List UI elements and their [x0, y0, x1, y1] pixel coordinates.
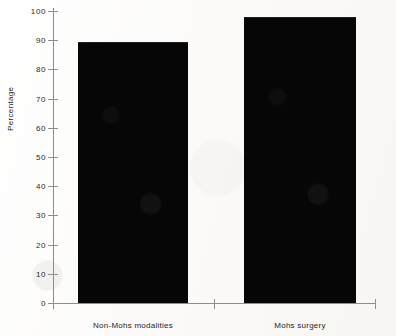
y-axis-line — [53, 8, 54, 303]
y-axis-tick-label: 70 — [36, 94, 46, 103]
y-axis-tick-label: 40 — [36, 182, 46, 191]
y-axis-tick-label: 30 — [36, 211, 46, 220]
y-axis-tick-label: 50 — [36, 153, 46, 162]
y-axis-tick-label: 20 — [36, 240, 46, 249]
x-axis-tick — [53, 299, 54, 309]
y-axis-tick-label: 0 — [41, 299, 46, 308]
y-axis-tick — [48, 99, 58, 100]
bar-chart-figure: Percentage 0102030405060708090100 Non-Mo… — [0, 0, 396, 336]
y-axis-tick-label: 100 — [31, 7, 46, 16]
x-axis-tick — [214, 299, 215, 309]
plot-area: 0102030405060708090100 Non-Mohs modaliti… — [53, 11, 375, 303]
y-axis-tick-label: 90 — [36, 36, 46, 45]
x-axis-tick — [375, 299, 376, 309]
y-axis-tick — [48, 186, 58, 187]
y-axis-tick-label: 10 — [36, 269, 46, 278]
bar — [78, 42, 188, 303]
bar-sheen — [244, 17, 356, 303]
y-axis-tick-label: 60 — [36, 123, 46, 132]
y-axis-tick-label: 80 — [36, 65, 46, 74]
y-axis-tick — [48, 40, 58, 41]
y-axis-tick — [48, 245, 58, 246]
y-axis-tick — [48, 157, 58, 158]
y-axis-tick — [48, 128, 58, 129]
bar — [244, 17, 356, 303]
y-axis-tick — [48, 69, 58, 70]
y-axis-tick — [48, 215, 58, 216]
y-axis-tick — [48, 11, 58, 12]
x-axis-category-label: Mohs surgery — [274, 321, 325, 330]
y-axis-tick — [48, 274, 58, 275]
bar-sheen — [78, 42, 188, 303]
x-axis-category-label: Non-Mohs modalities — [93, 321, 173, 330]
y-axis-title: Percentage — [6, 87, 15, 131]
